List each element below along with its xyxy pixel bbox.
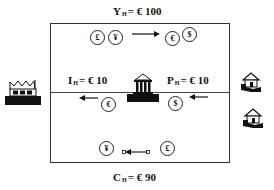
arrow-left-icon <box>79 94 98 102</box>
payments-var: P <box>167 74 174 86</box>
payments-label: PH= € 10 <box>167 75 209 86</box>
payments-sub: H <box>175 80 180 86</box>
coin-symbol: $ <box>188 31 192 39</box>
house-icon <box>241 71 261 93</box>
pound-coin: £ <box>160 141 175 156</box>
coin-symbol: ¥ <box>114 34 118 42</box>
consumption-sub: H <box>122 177 127 183</box>
coin-symbol: £ <box>166 145 170 153</box>
investment-var: I <box>68 74 72 86</box>
consumption-label: CH= € 90 <box>113 172 156 183</box>
coin-symbol: € <box>171 35 175 43</box>
arrow-right-icon <box>132 30 160 38</box>
dollar-coin: $ <box>182 27 197 42</box>
arrow-left-icon <box>189 93 208 101</box>
coin-symbol: ¥ <box>105 145 109 153</box>
euro-coin: € <box>165 31 180 46</box>
income-value: = € 100 <box>128 5 162 17</box>
yen-coin: ¥ <box>99 141 114 156</box>
income-label: YH= € 100 <box>113 6 161 17</box>
dollar-coin: $ <box>168 96 183 111</box>
payments-value: = € 10 <box>180 74 208 86</box>
investment-sub: H <box>73 80 78 86</box>
investment-label: IH= € 10 <box>68 75 107 86</box>
yen-coin: ¥ <box>108 30 123 45</box>
consumption-value: = € 90 <box>128 171 156 183</box>
coin-symbol: £ <box>96 34 100 42</box>
euro-coin: € <box>101 97 116 112</box>
investment-value: = € 10 <box>79 74 107 86</box>
coin-symbol: € <box>107 101 111 109</box>
coin-symbol: $ <box>174 100 178 108</box>
consumption-var: C <box>113 171 121 183</box>
arrow-left-icon <box>122 148 150 156</box>
bank-icon <box>127 73 159 102</box>
house-icon <box>243 107 263 129</box>
income-sub: H <box>122 11 127 17</box>
pound-coin: £ <box>90 30 105 45</box>
factory-icon <box>4 76 42 105</box>
income-var: Y <box>113 5 121 17</box>
